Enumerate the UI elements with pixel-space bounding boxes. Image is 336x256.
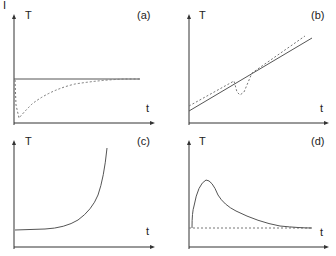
panel-b: T (b) t bbox=[187, 9, 329, 125]
panel-tag: (b) bbox=[311, 9, 324, 21]
panel-c: T (c) t bbox=[12, 135, 155, 249]
x-axis-label: t bbox=[320, 102, 323, 114]
panel-d: T (d) t bbox=[187, 135, 329, 249]
panel-tag: (c) bbox=[137, 135, 150, 147]
x-axis-arrow-icon bbox=[324, 245, 329, 249]
x-axis-arrow-icon bbox=[324, 121, 329, 125]
y-axis-arrow-icon bbox=[187, 140, 191, 145]
x-axis-arrow-icon bbox=[150, 121, 155, 125]
panel-a: T (a) t bbox=[12, 9, 155, 125]
dashed-curve bbox=[15, 79, 140, 118]
x-axis-label: t bbox=[146, 102, 149, 114]
y-axis-label: T bbox=[199, 9, 206, 21]
x-axis-label: t bbox=[146, 225, 149, 237]
corner-mark: I bbox=[3, 0, 6, 11]
y-axis-label: T bbox=[25, 9, 32, 21]
x-axis-arrow-icon bbox=[150, 245, 155, 249]
y-axis-label: T bbox=[25, 135, 32, 147]
y-axis-arrow-icon bbox=[12, 140, 16, 145]
x-axis-label: t bbox=[320, 226, 323, 238]
y-axis-arrow-icon bbox=[12, 14, 16, 19]
panel-tag: (d) bbox=[311, 135, 324, 147]
figure-canvas: I T (a) t T (b) t T (c) t bbox=[0, 0, 336, 256]
y-axis-label: T bbox=[199, 135, 206, 147]
solid-curve bbox=[189, 38, 312, 111]
y-axis-arrow-icon bbox=[187, 14, 191, 19]
panel-tag: (a) bbox=[137, 9, 150, 21]
solid-curve bbox=[192, 180, 312, 228]
dashed-curve bbox=[189, 36, 305, 106]
solid-curve bbox=[15, 148, 107, 230]
